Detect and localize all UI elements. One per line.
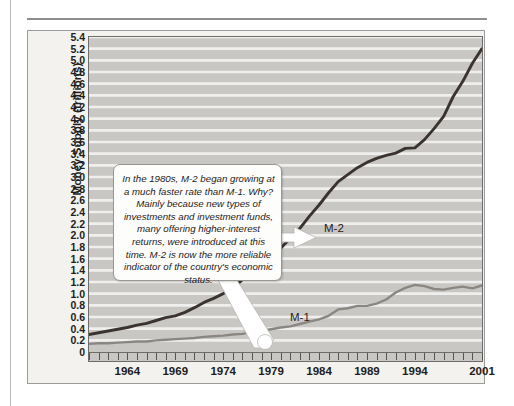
y-axis-tick-label: 2.2 <box>70 219 85 230</box>
y-axis-tick-label: 4.6 <box>70 79 85 90</box>
x-axis-minor-tick <box>338 353 339 360</box>
x-axis-tick-label: 1984 <box>306 365 332 377</box>
y-axis-tick-label: 4.4 <box>70 90 85 101</box>
y-axis-tick-label: 1.8 <box>70 242 85 253</box>
y-axis-tick-label: 0.2 <box>70 335 85 346</box>
y-axis-tick-label: 4.2 <box>70 102 85 113</box>
page-top-rule <box>27 18 487 20</box>
x-axis-minor-tick <box>271 353 272 360</box>
x-axis-minor-tick <box>137 353 138 360</box>
y-axis-tick-label: 5.4 <box>70 32 85 43</box>
y-axis-tick-label: 0.6 <box>70 312 85 323</box>
x-axis-minor-tick <box>319 353 320 360</box>
y-axis-tick-label: 4.0 <box>70 114 85 125</box>
y-axis-tick-label: 3.8 <box>70 125 85 136</box>
x-axis-minor-tick <box>386 353 387 360</box>
x-axis-minor-tick <box>185 353 186 360</box>
x-axis-tick-label: 1994 <box>402 365 428 377</box>
x-axis-minor-tick <box>223 353 224 360</box>
x-axis-minor-tick <box>99 353 100 360</box>
x-axis-minor-tick <box>194 353 195 360</box>
x-axis-minor-tick <box>329 353 330 360</box>
x-axis-minor-tick <box>290 353 291 360</box>
y-axis-tick-label: 0.4 <box>70 324 85 335</box>
x-axis-minor-tick <box>309 353 310 360</box>
x-axis-tick-label: 1964 <box>115 365 141 377</box>
x-axis-minor-tick <box>444 353 445 360</box>
callout-annotation-text: In the 1980s, M-2 began growing at a muc… <box>121 173 276 286</box>
y-axis-tick-labels: 00.20.40.60.81.01.21.41.61.82.02.22.42.6… <box>56 31 85 385</box>
x-axis-minor-tick <box>396 353 397 360</box>
y-axis-tick-label: 4.8 <box>70 67 85 78</box>
x-axis-minor-tick <box>242 353 243 360</box>
y-axis-tick-label: 2.6 <box>70 195 85 206</box>
y-axis-tick-label: 5.0 <box>70 55 85 66</box>
x-axis-minor-tick <box>127 353 128 360</box>
x-axis-minor-tick <box>147 353 148 360</box>
y-axis-tick-label: 2.8 <box>70 184 85 195</box>
x-axis-minor-tick <box>175 353 176 360</box>
x-axis-minor-tick <box>156 353 157 360</box>
y-axis-tick-label: 2.0 <box>70 230 85 241</box>
x-axis-minor-tick <box>166 353 167 360</box>
x-axis-tick-label: 2001 <box>469 365 495 377</box>
x-axis-tick-label: 1974 <box>210 365 236 377</box>
y-axis-tick-label: 3.6 <box>70 137 85 148</box>
page-left-rule <box>10 0 11 406</box>
x-axis-tick-strip <box>88 353 483 362</box>
series-label-m1: M-1 <box>290 311 310 323</box>
y-axis-tick-label: 2.4 <box>70 207 85 218</box>
figure-container: Money Supply (trillions) 00.20.40.60.81.… <box>27 30 485 384</box>
x-axis-minor-tick <box>377 353 378 360</box>
y-axis-tick-label: 0 <box>79 347 85 358</box>
y-axis-tick-label: 1.4 <box>70 265 85 276</box>
x-axis-minor-tick <box>118 353 119 360</box>
x-axis-minor-tick <box>434 353 435 360</box>
x-axis-minor-tick <box>252 353 253 360</box>
y-axis-tick-label: 3.4 <box>70 149 85 160</box>
x-axis-minor-tick <box>472 353 473 360</box>
x-axis-minor-tick <box>262 353 263 360</box>
x-axis-minor-tick <box>463 353 464 360</box>
chart-callout-annotation: In the 1980s, M-2 began growing at a muc… <box>113 164 282 281</box>
x-axis-tick-label: 1979 <box>258 365 284 377</box>
x-axis-minor-tick <box>453 353 454 360</box>
y-axis-tick-label: 1.6 <box>70 254 85 265</box>
x-axis-minor-tick <box>415 353 416 360</box>
x-axis-tick-label: 1989 <box>354 365 380 377</box>
x-axis-minor-tick <box>482 353 483 360</box>
y-axis-tick-label: 3.0 <box>70 172 85 183</box>
x-axis-minor-tick <box>300 353 301 360</box>
y-axis-tick-label: 0.8 <box>70 300 85 311</box>
x-axis-minor-tick <box>233 353 234 360</box>
x-axis-minor-tick <box>424 353 425 360</box>
x-axis-minor-tick <box>405 353 406 360</box>
y-axis-tick-label: 1.2 <box>70 277 85 288</box>
x-axis-tick-label: 1969 <box>162 365 188 377</box>
x-axis-minor-tick <box>108 353 109 360</box>
x-axis-minor-tick <box>348 353 349 360</box>
x-axis-minor-tick <box>367 353 368 360</box>
y-axis-tick-label: 1.0 <box>70 289 85 300</box>
x-axis-minor-tick <box>281 353 282 360</box>
x-axis-minor-tick <box>204 353 205 360</box>
x-axis-minor-tick <box>89 353 90 360</box>
x-axis-tick-labels: 19641969197419791984198919942001 <box>88 365 488 383</box>
y-axis-tick-label: 5.2 <box>70 44 85 55</box>
series-label-m2: M-2 <box>324 222 344 234</box>
x-axis-minor-tick <box>214 353 215 360</box>
y-axis-tick-label: 3.2 <box>70 160 85 171</box>
x-axis-minor-tick <box>357 353 358 360</box>
